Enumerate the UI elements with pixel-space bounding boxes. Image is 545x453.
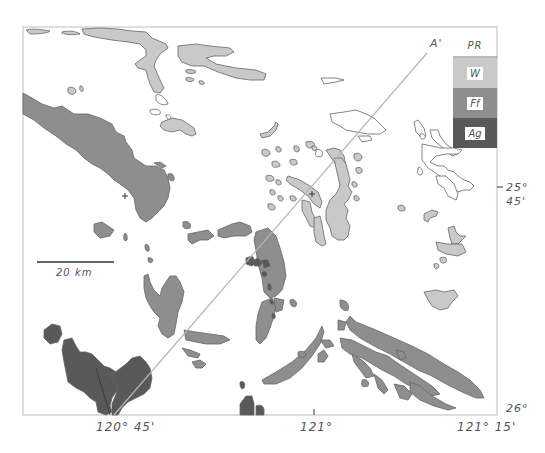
legend-label-ff: Ff [467,97,482,110]
x-tick-label-121: 121° [300,420,333,434]
section-start-label: A [98,400,107,413]
y-tick-label-26-deg: 26° [506,402,529,415]
legend-label-pr: PR [468,40,483,51]
y-tick-label-25-deg: 25° [506,181,529,194]
legend-item-ag: Ag [453,118,497,148]
x-tick-label-120-45: 120° 45' [96,420,155,434]
legend-item-w: W [453,58,497,88]
legend-label-ag: Ag [465,127,484,140]
scale-bar-label: 20 km [56,267,92,278]
legend-item-ff: Ff [453,88,497,118]
y-tick-label-45-min: 45' [506,195,526,208]
legend-label-w: W [467,67,483,80]
x-tick-label-121-15: 121° 15' [457,420,516,434]
legend-item-pr: PR [453,35,497,55]
section-end-label: A' [430,37,443,50]
